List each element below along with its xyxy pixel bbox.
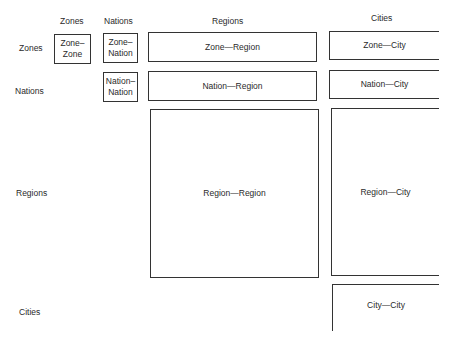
cell-city-city: City—City [332,284,439,331]
row-header-zones: Zones [19,43,43,53]
cell-region-city: Region—City [331,108,439,276]
row-header-nations: Nations [15,86,44,96]
cell-zone-region: Zone—Region [148,32,317,62]
cell-zone-zone: Zone– Zone [54,34,91,64]
row-header-regions: Regions [16,188,47,198]
row-header-cities: Cities [19,307,40,317]
cell-region-region: Region—Region [150,109,319,278]
column-header-nations: Nations [104,16,133,26]
cell-nation-city: Nation—City [329,70,439,99]
column-header-regions: Regions [212,16,243,26]
cell-nation-nation: Nation– Nation [103,72,138,102]
column-header-cities: Cities [371,13,392,23]
cell-zone-nation: Zone– Nation [103,33,138,63]
cell-zone-city: Zone—City [329,31,439,60]
cell-nation-region: Nation—Region [148,71,317,101]
column-header-zones: Zones [60,16,84,26]
